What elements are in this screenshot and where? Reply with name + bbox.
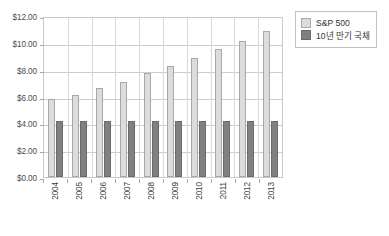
x-axis-tick-mark bbox=[67, 179, 68, 183]
bar-sp500 bbox=[72, 95, 79, 178]
bar-group bbox=[139, 18, 163, 177]
legend-item-0: S&P 500 bbox=[301, 18, 370, 28]
bar-group bbox=[92, 18, 116, 177]
bar-sp500 bbox=[48, 99, 55, 177]
x-axis-tick-label: 2009 bbox=[171, 182, 180, 200]
y-axis-tick-label: $12.00 bbox=[13, 13, 37, 22]
x-axis: 2004200520062007200820092010201120122013 bbox=[43, 179, 283, 236]
x-axis-tick-mark bbox=[115, 179, 116, 183]
y-axis: $0.00$2.00$4.00$6.00$8.00$10.00$12.00 bbox=[0, 0, 40, 236]
legend-label-treasury: 10년 만기 국채 bbox=[316, 29, 370, 41]
plot-area bbox=[43, 17, 283, 178]
legend-item-1: 10년 만기 국채 bbox=[301, 29, 370, 41]
x-axis-tick-label: 2010 bbox=[195, 182, 204, 200]
x-axis-tick-mark bbox=[91, 179, 92, 183]
x-axis-tick-label: 2007 bbox=[123, 182, 132, 200]
bar-treasury bbox=[175, 121, 182, 177]
bar-group bbox=[44, 18, 68, 177]
x-axis-tick-mark bbox=[187, 179, 188, 183]
x-axis-tick-label: 2004 bbox=[51, 182, 60, 200]
y-axis-tick-label: $0.00 bbox=[17, 174, 37, 183]
x-axis-tick-mark bbox=[211, 179, 212, 183]
x-axis-cell: 2006 bbox=[91, 179, 115, 236]
y-axis-tick-label: $4.00 bbox=[17, 120, 37, 129]
bar-groups bbox=[44, 18, 282, 177]
x-axis-cell: 2013 bbox=[259, 179, 283, 236]
y-axis-tick-label: $6.00 bbox=[17, 93, 37, 102]
bar-treasury bbox=[271, 121, 278, 177]
bar-treasury bbox=[199, 121, 206, 177]
bar-group bbox=[115, 18, 139, 177]
x-axis-tick-mark bbox=[259, 179, 260, 183]
bar-group bbox=[68, 18, 92, 177]
bar-treasury bbox=[104, 121, 111, 177]
legend-swatch-treasury bbox=[301, 30, 311, 40]
bar-group bbox=[258, 18, 282, 177]
legend-swatch-sp500 bbox=[301, 18, 311, 28]
bar-treasury bbox=[223, 121, 230, 177]
x-axis-cell: 2008 bbox=[139, 179, 163, 236]
chart-legend: S&P 500 10년 만기 국채 bbox=[295, 11, 377, 48]
x-axis-tick-label: 2013 bbox=[267, 182, 276, 200]
bar-sp500 bbox=[144, 73, 151, 177]
x-axis-tick-label: 2011 bbox=[219, 182, 228, 199]
bar-group bbox=[187, 18, 211, 177]
bar-sp500 bbox=[120, 82, 127, 177]
bar-treasury bbox=[128, 121, 135, 177]
bar-sp500 bbox=[96, 88, 103, 177]
x-axis-tick-label: 2008 bbox=[147, 182, 156, 200]
y-axis-tick-label: $2.00 bbox=[17, 147, 37, 156]
bar-group bbox=[211, 18, 235, 177]
bar-sp500 bbox=[239, 41, 246, 177]
bar-treasury bbox=[152, 121, 159, 177]
x-axis-cell: 2010 bbox=[187, 179, 211, 236]
x-axis-cell: 2005 bbox=[67, 179, 91, 236]
x-axis-tick-mark bbox=[43, 179, 44, 183]
x-axis-tick-label: 2005 bbox=[75, 182, 84, 200]
bar-sp500 bbox=[263, 31, 270, 177]
x-axis-cell: 2011 bbox=[211, 179, 235, 236]
x-axis-tick-mark bbox=[139, 179, 140, 183]
x-axis-tick-mark bbox=[163, 179, 164, 183]
y-axis-tick-label: $10.00 bbox=[13, 39, 37, 48]
bar-treasury bbox=[80, 121, 87, 177]
bar-treasury bbox=[56, 121, 63, 177]
bar-sp500 bbox=[167, 66, 174, 177]
x-axis-cell: 2007 bbox=[115, 179, 139, 236]
x-axis-tick-mark bbox=[235, 179, 236, 183]
y-axis-tick-label: $8.00 bbox=[17, 66, 37, 75]
bar-chart: $0.00$2.00$4.00$6.00$8.00$10.00$12.00 20… bbox=[0, 0, 389, 236]
x-axis-cell: 2004 bbox=[43, 179, 67, 236]
bar-group bbox=[163, 18, 187, 177]
legend-label-sp500: S&P 500 bbox=[316, 18, 350, 28]
x-axis-cell: 2009 bbox=[163, 179, 187, 236]
bar-treasury bbox=[247, 121, 254, 177]
bar-sp500 bbox=[215, 49, 222, 177]
bar-group bbox=[234, 18, 258, 177]
bar-sp500 bbox=[191, 58, 198, 177]
x-axis-cell: 2012 bbox=[235, 179, 259, 236]
x-axis-tick-label: 2006 bbox=[99, 182, 108, 200]
x-axis-tick-label: 2012 bbox=[243, 182, 252, 200]
